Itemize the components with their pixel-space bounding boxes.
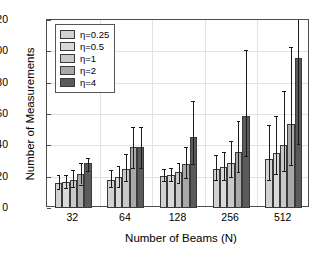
error-bar-line <box>291 47 292 165</box>
error-bar-cap-bottom <box>274 174 278 175</box>
error-bar-line <box>141 127 142 169</box>
error-bar-line <box>186 147 187 178</box>
error-bar-line <box>66 175 67 188</box>
error-bar-cap-top <box>79 163 83 164</box>
error-bar-cap-top <box>162 169 166 170</box>
y-tick-label: 0 <box>0 201 8 213</box>
y-tick-label: 100 <box>0 44 8 56</box>
error-bar-cap-top <box>222 152 226 153</box>
error-bar-line <box>126 154 127 181</box>
error-bar-line <box>298 20 299 144</box>
y-axis-title: Number of Measurements <box>24 24 36 204</box>
legend-swatch <box>60 30 75 39</box>
error-bar-cap-top <box>64 175 68 176</box>
error-bar-line <box>179 163 180 183</box>
error-bar-line <box>246 50 247 156</box>
error-bar-cap-bottom <box>237 172 241 173</box>
error-bar-cap-bottom <box>124 181 128 182</box>
error-bar-line <box>81 163 82 185</box>
error-bar-cap-bottom <box>139 168 143 169</box>
error-bar-line <box>269 125 270 180</box>
error-bar-line <box>216 155 217 180</box>
error-bar-cap-bottom <box>169 181 173 182</box>
y-tick-label: 120 <box>0 13 8 25</box>
error-bar-line <box>133 127 134 169</box>
error-bar-cap-top <box>131 127 135 128</box>
legend-item: η=0.25 <box>60 29 109 41</box>
error-bar-cap-bottom <box>57 189 61 190</box>
error-bar-cap-bottom <box>86 171 90 172</box>
x-axis-title: Number of Beams (N) <box>45 232 317 244</box>
legend-item: η=2 <box>60 65 109 77</box>
error-bar-cap-top <box>289 47 293 48</box>
error-bar-cap-top <box>244 50 248 51</box>
error-bar-cap-top <box>117 166 121 167</box>
legend-label: η=2 <box>80 66 96 76</box>
error-bar-line <box>171 168 172 181</box>
legend-swatch <box>60 78 75 87</box>
legend: η=0.25η=0.5η=1η=2η=4 <box>55 24 115 93</box>
error-bar-line <box>231 141 232 178</box>
error-bar-cap-bottom <box>289 165 293 166</box>
legend-label: η=1 <box>80 54 96 64</box>
error-bar-cap-top <box>124 154 128 155</box>
error-bar-cap-bottom <box>282 171 286 172</box>
error-bar-cap-bottom <box>184 178 188 179</box>
y-tick-label: 40 <box>0 138 8 150</box>
error-bar-cap-bottom <box>244 156 248 157</box>
error-bar-cap-bottom <box>297 144 301 145</box>
error-bar-line <box>238 121 239 172</box>
y-tick-label: 20 <box>0 170 8 182</box>
error-bar-line <box>193 101 194 164</box>
error-bar-line <box>164 169 165 182</box>
legend-item: η=4 <box>60 77 109 89</box>
error-bar-cap-top <box>267 125 271 126</box>
error-bar-cap-top <box>214 155 218 156</box>
error-bar-cap-top <box>229 141 233 142</box>
legend-item: η=0.5 <box>60 41 109 53</box>
error-bar-cap-top <box>237 121 241 122</box>
y-tick-mark <box>47 208 51 209</box>
error-bar-line <box>59 175 60 189</box>
error-bar-cap-bottom <box>131 168 135 169</box>
error-bar-cap-bottom <box>79 185 83 186</box>
error-bar-cap-bottom <box>109 187 113 188</box>
error-bar-cap-bottom <box>229 177 233 178</box>
legend-label: η=0.5 <box>80 42 104 52</box>
error-bar-cap-top <box>274 116 278 117</box>
error-bar-cap-bottom <box>177 183 181 184</box>
x-tick-label: 512 <box>248 211 318 223</box>
error-bar-cap-bottom <box>222 180 226 181</box>
error-bar-line <box>276 116 277 174</box>
error-bar-cap-top <box>71 170 75 171</box>
error-bar-cap-bottom <box>71 187 75 188</box>
error-bar-cap-bottom <box>64 188 68 189</box>
legend-item: η=1 <box>60 53 109 65</box>
legend-swatch <box>60 66 75 75</box>
bar-chart-figure: Number of Measurements Number of Beams (… <box>0 0 319 253</box>
error-bar-cap-top <box>86 158 90 159</box>
error-bar-cap-top <box>169 168 173 169</box>
error-bar-cap-bottom <box>191 164 195 165</box>
error-bar-cap-top <box>282 91 286 92</box>
error-bar-cap-bottom <box>117 187 121 188</box>
y-tick-label: 80 <box>0 76 8 88</box>
error-bar-cap-top <box>177 163 181 164</box>
error-bar-line <box>284 91 285 172</box>
legend-swatch <box>60 42 75 51</box>
legend-label: η=4 <box>80 78 96 88</box>
error-bar-line <box>119 166 120 186</box>
error-bar-line <box>224 152 225 180</box>
error-bar-line <box>88 158 89 171</box>
error-bar-cap-bottom <box>162 181 166 182</box>
error-bar-cap-top <box>184 147 188 148</box>
error-bar-cap-top <box>191 101 195 102</box>
legend-label: η=0.25 <box>80 30 109 40</box>
error-bar-line <box>73 170 74 187</box>
y-tick-label: 60 <box>0 107 8 119</box>
legend-swatch <box>60 54 75 63</box>
error-bar-cap-top <box>109 170 113 171</box>
error-bar-line <box>111 170 112 186</box>
error-bar-cap-bottom <box>214 180 218 181</box>
error-bar-cap-bottom <box>267 180 271 181</box>
